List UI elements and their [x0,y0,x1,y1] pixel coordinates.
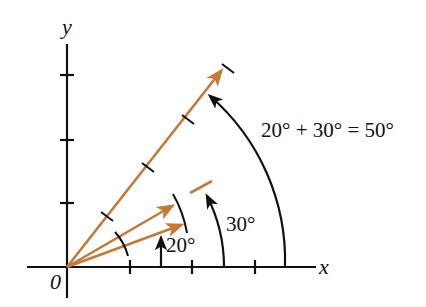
origin-label: 0 [50,269,61,294]
rotation-diagram: y x 0 20° 30° 20° + 30° = 50° [0,0,426,307]
vectors [67,71,221,267]
vector-fragment [190,181,212,193]
x-axis-label: x [318,254,329,279]
angle-label-20: 20° [166,233,195,257]
y-axis-label: y [60,14,72,39]
angle-sum-label: 20° + 30° = 50° [261,118,394,142]
angle-arrow-30 [207,196,224,267]
axes [27,44,316,298]
angle-label-30: 30° [226,212,255,236]
